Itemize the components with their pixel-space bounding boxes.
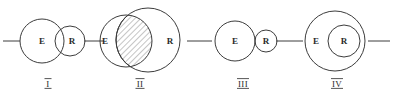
panel-3: E R III: [215, 21, 277, 89]
panel-3-label-E: E: [232, 36, 238, 46]
panel-1-label-R: R: [69, 36, 76, 46]
panel-4-numeral: IV: [332, 79, 342, 89]
figure-root: E R I E R II E R: [0, 0, 393, 97]
set-relation-figure: E R I E R II E R: [0, 0, 393, 97]
panel-1-label-E: E: [39, 36, 45, 46]
panel-2: E R II: [100, 8, 180, 89]
panel-1: E R I: [20, 19, 85, 89]
panel-2-label-E: E: [102, 36, 108, 46]
panel-2-label-R: R: [167, 36, 174, 46]
panel-3-numeral: III: [238, 79, 248, 89]
panel-4: E R IV: [305, 11, 365, 89]
panel-2-numeral: II: [137, 79, 144, 89]
panel-4-label-R: R: [341, 36, 348, 46]
panel-1-numeral: I: [46, 79, 49, 89]
panel-4-label-E: E: [313, 36, 319, 46]
panel-3-label-R: R: [263, 36, 270, 46]
